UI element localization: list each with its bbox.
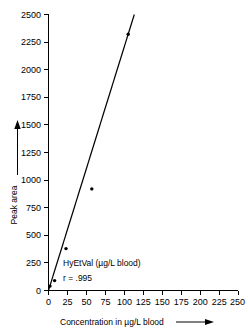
x-tick-label-250: 250 [230, 297, 245, 307]
y-tick-label-0: 0 [36, 286, 41, 296]
y-tick-label-1000: 1000 [21, 175, 41, 185]
calibration-curve-figure: 0 250 500 750 1000 1250 1500 1750 2000 2… [0, 0, 248, 335]
y-tick-label-250: 250 [26, 258, 41, 268]
data-point-3 [64, 247, 67, 250]
x-tick-label-50: 50 [81, 297, 91, 307]
y-tick-label-1250: 1250 [21, 148, 41, 158]
annotation-correlation: r = .995 [63, 273, 92, 283]
annotation-analyte: HyEtVal (µg/L blood) [63, 258, 141, 268]
x-tick-label-125: 125 [136, 297, 151, 307]
data-point-2 [53, 279, 56, 282]
x-tick-label-0: 0 [46, 297, 51, 307]
y-tick-label-2250: 2250 [21, 37, 41, 47]
y-tick-label-1750: 1750 [21, 92, 41, 102]
x-tick-label-75: 75 [100, 297, 110, 307]
y-axis-title: Peak area [9, 185, 19, 224]
y-tick-label-2500: 2500 [21, 10, 41, 20]
y-tick-label-1500: 1500 [21, 120, 41, 130]
x-axis-title: Concentration in µg/L blood [60, 317, 164, 327]
y-tick-label-750: 750 [26, 203, 41, 213]
x-tick-label-150: 150 [155, 297, 170, 307]
y-tick-label-500: 500 [26, 230, 41, 240]
x-tick-label-175: 175 [174, 297, 189, 307]
data-point-1 [48, 284, 51, 287]
data-point-5 [127, 33, 130, 36]
x-tick-label-25: 25 [62, 297, 72, 307]
data-point-4 [90, 187, 93, 190]
x-tick-label-200: 200 [193, 297, 208, 307]
x-tick-label-100: 100 [117, 297, 132, 307]
x-tick-label-225: 225 [212, 297, 227, 307]
y-tick-label-2000: 2000 [21, 65, 41, 75]
